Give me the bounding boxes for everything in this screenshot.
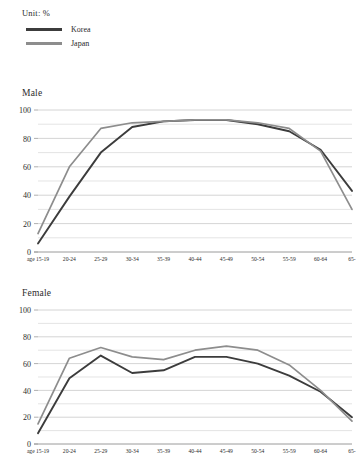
x-axis-tick-label: 35-39	[157, 448, 170, 454]
y-axis-tick-label: 100	[19, 306, 31, 315]
x-axis-tick-label: 20-24	[63, 448, 76, 454]
x-axis-tick-label: 30-34	[126, 448, 139, 454]
legend-item-japan: Japan	[26, 38, 192, 49]
x-axis-tick-label: 35-39	[157, 256, 170, 262]
chart-title-female: Female	[22, 288, 51, 298]
legend-entries: Korea Japan	[22, 24, 192, 49]
x-axis-tick-label: 25-29	[94, 448, 107, 454]
chart-page: Unit: % Korea Japan Male 020406080100age…	[0, 0, 359, 466]
y-axis-tick-label: 20	[23, 413, 31, 422]
legend-swatch-japan-icon	[26, 42, 62, 45]
x-axis-tick-label: 50-54	[251, 448, 264, 454]
chart-title-male: Male	[22, 88, 42, 98]
x-axis-tick-label: 65-	[348, 256, 356, 262]
x-axis-tick-label: 45-49	[220, 256, 233, 262]
x-axis-tick-label: 65-	[348, 448, 356, 454]
x-axis-tick-label: 40-44	[188, 256, 201, 262]
x-axis-tick-label: 60-64	[314, 256, 327, 262]
line-chart-female-svg: 020406080100age 15-1920-2425-2930-3435-3…	[0, 304, 359, 466]
legend-block: Unit: % Korea Japan	[22, 8, 192, 52]
plot-area-male: 020406080100age 15-1920-2425-2930-3435-3…	[0, 104, 359, 274]
chart-female: Female 020406080100age 15-1920-2425-2930…	[0, 288, 359, 466]
x-axis-tick-label: 60-64	[314, 448, 327, 454]
chart-male: Male 020406080100age 15-1920-2425-2930-3…	[0, 88, 359, 278]
x-axis-tick-label: 45-49	[220, 448, 233, 454]
y-axis-tick-label: 100	[19, 106, 31, 115]
data-line-japan	[38, 120, 352, 234]
y-axis-tick-label: 20	[23, 220, 31, 229]
y-axis-tick-label: 60	[23, 360, 31, 369]
y-axis-tick-label: 80	[23, 333, 31, 342]
line-chart-male-svg: 020406080100age 15-1920-2425-2930-3435-3…	[0, 104, 359, 274]
x-axis-tick-label: 55-59	[283, 448, 296, 454]
x-axis-tick-label: 50-54	[251, 256, 264, 262]
x-axis-tick-label: 25-29	[94, 256, 107, 262]
legend-item-korea: Korea	[26, 24, 192, 35]
x-axis-tick-label: 20-24	[63, 256, 76, 262]
plot-area-female: 020406080100age 15-1920-2425-2930-3435-3…	[0, 304, 359, 466]
legend-label-korea: Korea	[71, 25, 91, 35]
legend-label-japan: Japan	[71, 39, 89, 49]
x-axis-tick-label: age 15-19	[27, 448, 49, 454]
x-axis-tick-label: 40-44	[188, 448, 201, 454]
y-axis-tick-label: 40	[23, 191, 31, 200]
x-axis-tick-label: 30-34	[126, 256, 139, 262]
unit-label: Unit: %	[22, 8, 192, 19]
x-axis-tick-label: age 15-19	[27, 256, 49, 262]
x-axis-tick-label: 55-59	[283, 256, 296, 262]
y-axis-tick-label: 80	[23, 135, 31, 144]
y-axis-tick-label: 40	[23, 387, 31, 396]
y-axis-tick-label: 60	[23, 163, 31, 172]
data-line-korea	[38, 356, 352, 434]
legend-swatch-korea-icon	[26, 28, 62, 31]
